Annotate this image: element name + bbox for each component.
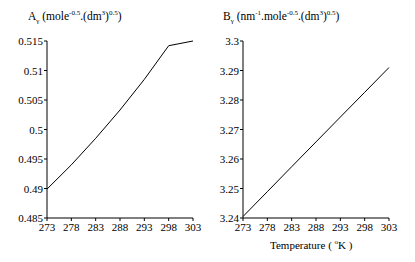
left-y-tick-label: 0.505 (18, 94, 43, 106)
left-y-tick-label: 0.495 (18, 153, 43, 165)
right-x-tick-label: 288 (308, 221, 325, 233)
right-data-line (243, 68, 389, 217)
right-plot-area: 3.243.253.263.273.283.293.32732782832882… (220, 35, 398, 233)
right-y-tick-label: 3.29 (220, 65, 240, 77)
left-x-tick-label: 283 (87, 221, 104, 233)
left-y-tick-label: 0.515 (18, 35, 43, 47)
right-x-tick-label: 303 (381, 221, 398, 233)
right-x-tick-label: 298 (356, 221, 373, 233)
left-x-tick-label: 293 (136, 221, 153, 233)
left-y-tick-label: 0.49 (24, 183, 44, 195)
right-x-tick-label: 273 (235, 221, 252, 233)
left-y-tick-label: 0.51 (24, 65, 43, 77)
left-plot-area: 0.4850.490.4950.50.5050.510.515273278283… (18, 35, 202, 233)
chart-canvas: Aγ (mole-0.5.(dm3)0.5) Bγ (nm-1.mole-0.5… (0, 0, 415, 262)
right-y-tick-label: 3.28 (220, 94, 240, 106)
right-x-tick-label: 293 (332, 221, 349, 233)
right-y-tick-label: 3.27 (220, 124, 240, 136)
left-x-tick-label: 288 (112, 221, 129, 233)
right-y-tick-label: 3.25 (220, 183, 240, 195)
left-chart-title: Aγ (mole-0.5.(dm3)0.5) (28, 9, 122, 25)
right-y-tick-label: 3.26 (220, 153, 240, 165)
left-data-line (47, 41, 193, 189)
left-x-tick-label: 273 (39, 221, 56, 233)
right-x-tick-label: 283 (283, 221, 300, 233)
right-chart-title: Bγ (nm-1.mole-0.5.(dm3)0.5) (223, 9, 339, 25)
left-x-tick-label: 298 (160, 221, 177, 233)
left-y-tick-label: 0.5 (29, 124, 43, 136)
left-x-tick-label: 303 (185, 221, 202, 233)
right-x-axis-label: Temperature ( oK ) (270, 238, 353, 252)
right-y-tick-label: 3.3 (225, 35, 239, 47)
right-x-tick-label: 278 (259, 221, 276, 233)
left-x-tick-label: 278 (63, 221, 80, 233)
